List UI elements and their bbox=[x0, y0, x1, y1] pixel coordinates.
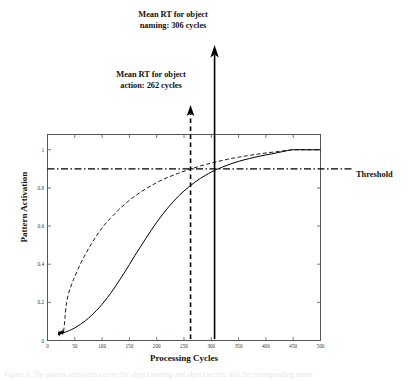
plot-area bbox=[0, 0, 411, 381]
figure-caption: Figure 3. The pattern activation curves … bbox=[4, 370, 407, 379]
x-axis-ticks-top bbox=[48, 135, 321, 139]
figure-container: Mean RT for object naming: 306 cycles Me… bbox=[0, 0, 411, 381]
y-axis-ticks-right bbox=[317, 150, 321, 341]
y-axis-ticks-left bbox=[48, 150, 52, 341]
marker-object-naming bbox=[210, 45, 218, 339]
plot-frame bbox=[48, 135, 321, 341]
curve-onset-noise bbox=[58, 331, 63, 334]
curve-object-naming bbox=[58, 150, 320, 335]
curve-object-action bbox=[58, 150, 320, 335]
onset-noise-path bbox=[58, 331, 63, 334]
x-axis-ticks-bottom bbox=[48, 337, 321, 341]
marker-object-action bbox=[187, 105, 195, 339]
